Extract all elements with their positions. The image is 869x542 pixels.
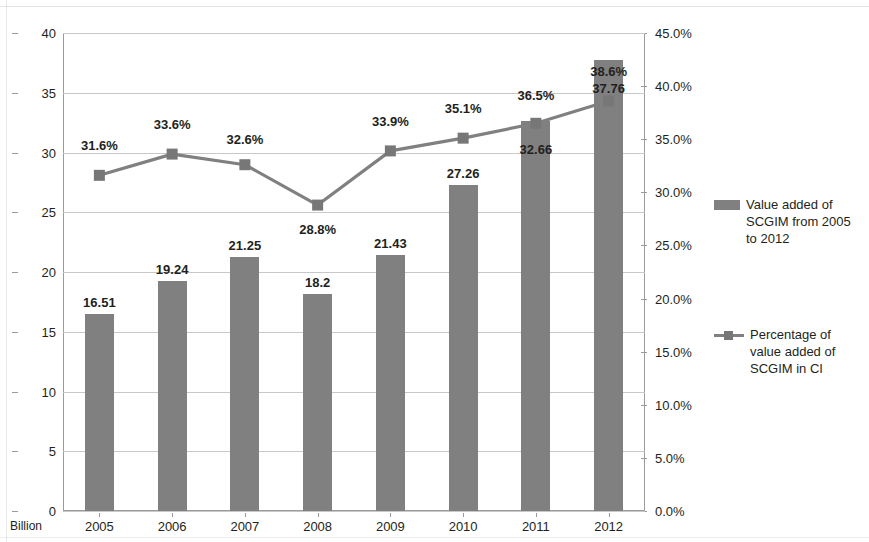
y-axis-left-tick-label: 10	[42, 386, 56, 399]
percentage-value-label: 35.1%	[445, 102, 482, 115]
y-axis-right-tick-label: 30.0%	[655, 186, 692, 199]
y-axis-left-tick-label: 35	[42, 87, 56, 100]
y-axis-right-tick-label: 10.0%	[655, 399, 692, 412]
line-marker	[94, 170, 105, 181]
y-axis-left-tick-label: 40	[42, 27, 56, 40]
y-axis-right-tick-label: 25.0%	[655, 239, 692, 252]
x-axis-tick-mark	[245, 513, 246, 517]
gridline	[63, 511, 645, 512]
y-axis-right: 0.0%5.0%10.0%15.0%20.0%25.0%30.0%35.0%40…	[655, 33, 715, 511]
legend-item-percentage[interactable]: Percentage of value added of SCGIM in CI	[714, 326, 864, 377]
percentage-value-label: 38.6%	[590, 65, 627, 78]
x-axis-tick-mark	[172, 513, 173, 517]
y-axis-left-tick-label: 15	[42, 326, 56, 339]
x-axis-tick-label: 2007	[230, 519, 259, 534]
y-axis-right-tick-label: 20.0%	[655, 293, 692, 306]
y-axis-right-tick-label: 0.0%	[655, 505, 685, 518]
y-axis-left-tick-label: 5	[49, 445, 56, 458]
line-marker	[530, 118, 541, 129]
y-axis-left-tick-label: 30	[42, 147, 56, 160]
y-axis-left-tick-mark	[12, 272, 18, 273]
line-marker	[458, 133, 469, 144]
line-series	[63, 33, 645, 511]
x-axis-tick-mark	[463, 513, 464, 517]
line-marker	[603, 95, 614, 106]
x-axis-tick-label: 2006	[158, 519, 187, 534]
y-axis-left-tick-label: 0	[49, 505, 56, 518]
line-marker	[312, 200, 323, 211]
legend-label-percentage: Percentage of value added of SCGIM in CI	[750, 326, 864, 377]
bar-value-label: 16.51	[83, 296, 116, 309]
y-axis-unit-label: Billion	[10, 519, 42, 533]
line-marker	[239, 159, 250, 170]
plot-area: 16.5119.2421.2518.221.4327.2632.6637.76 …	[63, 33, 645, 511]
legend-label-value-added: Value added of SCGIM from 2005 to 2012	[746, 196, 864, 247]
line-marker	[385, 145, 396, 156]
bar-value-label: 19.24	[156, 263, 189, 276]
bar-swatch-icon	[714, 200, 740, 210]
y-axis-left-tick-label: 25	[42, 206, 56, 219]
x-axis-tick-mark	[609, 513, 610, 517]
y-axis-left-tick-mark	[12, 451, 18, 452]
bar-value-label: 21.25	[229, 239, 262, 252]
chart-figure: 0510152025303540 0.0%5.0%10.0%15.0%20.0%…	[0, 0, 869, 542]
y-axis-left-tick-mark	[12, 511, 18, 512]
percentage-value-label: 33.6%	[154, 118, 191, 131]
percentage-value-label: 28.8%	[299, 223, 336, 236]
line-marker	[167, 149, 178, 160]
x-axis: 20052006200720082009201020112012	[63, 513, 645, 539]
scan-edge-left	[6, 0, 7, 542]
y-axis-right-tick-label: 35.0%	[655, 133, 692, 146]
y-axis-right-tick-label: 5.0%	[655, 452, 685, 465]
x-axis-tick-label: 2011	[522, 519, 550, 534]
scan-edge-top	[0, 6, 869, 7]
bar-value-label: 32.66	[520, 143, 553, 156]
y-axis-left-tick-mark	[12, 153, 18, 154]
x-axis-tick-label: 2009	[376, 519, 405, 534]
line-swatch-icon	[714, 329, 744, 341]
bar-value-label: 18.2	[305, 276, 330, 289]
x-axis-tick-mark	[318, 513, 319, 517]
percentage-value-label: 32.6%	[226, 133, 263, 146]
y-axis-left: 0510152025303540	[18, 33, 56, 511]
x-axis-tick-mark	[99, 513, 100, 517]
bar-value-label: 37.76	[592, 82, 625, 95]
y-axis-left-tick-mark	[12, 392, 18, 393]
x-axis-tick-label: 2012	[594, 519, 623, 534]
x-axis-tick-mark	[390, 513, 391, 517]
percentage-value-label: 31.6%	[81, 139, 118, 152]
y-axis-left-tick-mark	[12, 33, 18, 34]
bar-value-label: 21.43	[374, 237, 407, 250]
y-axis-left-tick-mark	[12, 212, 18, 213]
y-axis-right-tick-label: 15.0%	[655, 346, 692, 359]
x-axis-tick-label: 2008	[303, 519, 332, 534]
x-axis-tick-mark	[536, 513, 537, 517]
percentage-value-label: 33.9%	[372, 115, 409, 128]
y-axis-left-tick-mark	[12, 93, 18, 94]
y-axis-right-tick-label: 40.0%	[655, 80, 692, 93]
y-axis-right-tick-label: 45.0%	[655, 27, 692, 40]
legend-item-value-added[interactable]: Value added of SCGIM from 2005 to 2012	[714, 196, 864, 247]
bar-value-label: 27.26	[447, 167, 480, 180]
y-axis-left-tick-label: 20	[42, 266, 56, 279]
x-axis-tick-label: 2010	[449, 519, 478, 534]
y-axis-left-tick-mark	[12, 332, 18, 333]
percentage-value-label: 36.5%	[517, 89, 554, 102]
x-axis-tick-label: 2005	[85, 519, 114, 534]
